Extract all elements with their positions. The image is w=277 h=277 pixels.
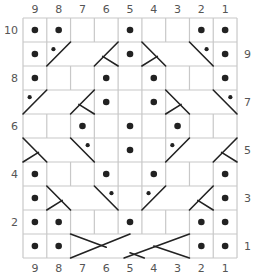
purl-dot bbox=[127, 219, 134, 226]
purl-dot bbox=[32, 27, 39, 34]
purl-dot bbox=[55, 243, 62, 250]
purl-dot bbox=[32, 75, 39, 82]
row-label: 3 bbox=[244, 192, 251, 205]
cable-purl-dot bbox=[204, 47, 208, 51]
column-label: 3 bbox=[174, 3, 181, 16]
cable-purl-dot bbox=[86, 143, 90, 147]
column-labels-top: 987654321 bbox=[31, 3, 228, 16]
purl-dot bbox=[103, 75, 110, 82]
purl-dot bbox=[55, 27, 62, 34]
purl-dot bbox=[32, 243, 39, 250]
purl-dot bbox=[198, 219, 205, 226]
purl-dot bbox=[150, 171, 157, 178]
purl-dot bbox=[150, 99, 157, 106]
column-label: 1 bbox=[222, 262, 229, 275]
row-label: 2 bbox=[11, 216, 18, 229]
column-label: 2 bbox=[198, 262, 205, 275]
column-label: 7 bbox=[79, 262, 86, 275]
column-label: 9 bbox=[31, 3, 38, 16]
cable-purl-dot bbox=[109, 191, 113, 195]
cable-purl-dot bbox=[146, 191, 150, 195]
purl-dot bbox=[32, 219, 39, 226]
row-label: 7 bbox=[244, 96, 251, 109]
purl-dot bbox=[150, 75, 157, 82]
column-label: 5 bbox=[127, 3, 134, 16]
purl-dot bbox=[103, 99, 110, 106]
column-label: 3 bbox=[174, 262, 181, 275]
purl-dot bbox=[222, 243, 229, 250]
column-label: 5 bbox=[127, 262, 134, 275]
purl-dot bbox=[222, 219, 229, 226]
purl-dot bbox=[32, 195, 39, 202]
knitting-chart: 987654321 987654321 10864297531 bbox=[0, 0, 277, 277]
column-label: 4 bbox=[150, 3, 157, 16]
row-label: 5 bbox=[244, 144, 251, 157]
row-label: 1 bbox=[244, 240, 251, 253]
purl-dot bbox=[127, 51, 134, 58]
cable-purl-dot bbox=[28, 95, 32, 99]
cable-purl-dot bbox=[228, 95, 232, 99]
row-label: 4 bbox=[11, 168, 18, 181]
row-label: 10 bbox=[4, 24, 18, 37]
purl-dot bbox=[222, 75, 229, 82]
column-label: 6 bbox=[103, 262, 110, 275]
purl-dot bbox=[32, 51, 39, 58]
column-labels-bottom: 987654321 bbox=[31, 262, 228, 275]
cable-purl-dot bbox=[170, 143, 174, 147]
purl-dot bbox=[32, 171, 39, 178]
row-label: 8 bbox=[11, 72, 18, 85]
purl-dot bbox=[127, 27, 134, 34]
column-label: 8 bbox=[55, 3, 62, 16]
row-label: 6 bbox=[11, 120, 18, 133]
purl-dot bbox=[174, 123, 181, 130]
purl-dot bbox=[222, 171, 229, 178]
purl-dot bbox=[222, 51, 229, 58]
purl-dot bbox=[103, 171, 110, 178]
purl-dot bbox=[222, 195, 229, 202]
purl-dot bbox=[198, 27, 205, 34]
purl-dot bbox=[79, 123, 86, 130]
column-label: 6 bbox=[103, 3, 110, 16]
purl-dot bbox=[55, 219, 62, 226]
column-label: 8 bbox=[55, 262, 62, 275]
column-label: 2 bbox=[198, 3, 205, 16]
purl-dot bbox=[198, 243, 205, 250]
column-label: 9 bbox=[31, 262, 38, 275]
purl-dot bbox=[222, 27, 229, 34]
column-label: 4 bbox=[150, 262, 157, 275]
column-label: 7 bbox=[79, 3, 86, 16]
row-label: 9 bbox=[244, 48, 251, 61]
cable-purl-dot bbox=[51, 47, 55, 51]
purl-dot bbox=[127, 147, 134, 154]
purl-dot bbox=[127, 123, 134, 130]
column-label: 1 bbox=[222, 3, 229, 16]
